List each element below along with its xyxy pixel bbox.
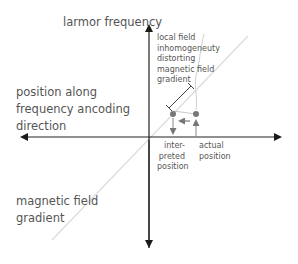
position-axis-label-line: frequency ancoding <box>16 101 130 118</box>
interpreted-label-line: preted <box>157 152 185 163</box>
gradient-label-line: magnetic field <box>16 193 98 210</box>
distortion-connector <box>173 111 196 114</box>
actual-position-point <box>193 111 199 117</box>
inhomogeneity-label: local field inhomogeneuty distorting mag… <box>157 33 220 86</box>
inhomogeneity-label-line: distorting <box>157 54 220 65</box>
actual-position-label: actual position <box>199 141 231 162</box>
interpreted-position-label: inter- preted position <box>157 141 185 173</box>
inhomogeneity-label-line: magnetic field <box>157 65 220 76</box>
position-axis-label-line: position along <box>16 84 130 101</box>
interpreted-position-point <box>170 111 176 117</box>
inhomogeneity-label-line: inhomogeneuty <box>157 44 220 55</box>
position-axis-label: position along frequency ancoding direct… <box>16 84 130 135</box>
inhomogeneity-label-line: gradient <box>157 75 220 86</box>
gradient-label: magnetic field gradient <box>16 193 98 227</box>
inhomogeneity-label-line: local field <box>157 33 220 44</box>
larmor-frequency-label: larmor frequency <box>63 14 162 31</box>
interpreted-label-line: position <box>157 162 185 173</box>
interpreted-label-line: inter- <box>157 141 185 152</box>
gradient-label-line: gradient <box>16 210 98 227</box>
actual-label-line: position <box>199 152 231 163</box>
actual-label-line: actual <box>199 141 231 152</box>
position-axis-label-line: direction <box>16 118 130 135</box>
